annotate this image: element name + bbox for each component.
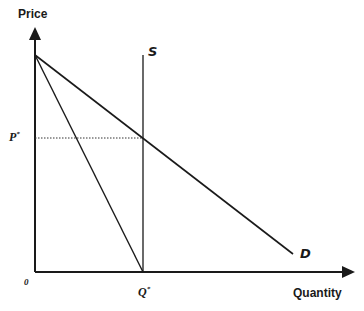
price-sup: * (16, 130, 20, 138)
demand-label: D (300, 246, 311, 261)
demand-curve (35, 55, 293, 254)
quantity-equilibrium-label: Q* (138, 285, 150, 300)
y-axis-arrow-icon (29, 27, 41, 40)
supply-label: S (148, 44, 157, 59)
price-equilibrium-label: P* (9, 130, 20, 145)
x-axis-label: Quantity (293, 286, 342, 300)
diagram-canvas (0, 0, 364, 311)
y-axis-label: Price (18, 7, 47, 21)
origin-label: 0 (24, 277, 29, 287)
quantity-letter: Q (138, 285, 147, 299)
quantity-sup: * (147, 285, 151, 293)
marginal-revenue-curve (35, 55, 143, 272)
x-axis-arrow-icon (342, 266, 355, 278)
